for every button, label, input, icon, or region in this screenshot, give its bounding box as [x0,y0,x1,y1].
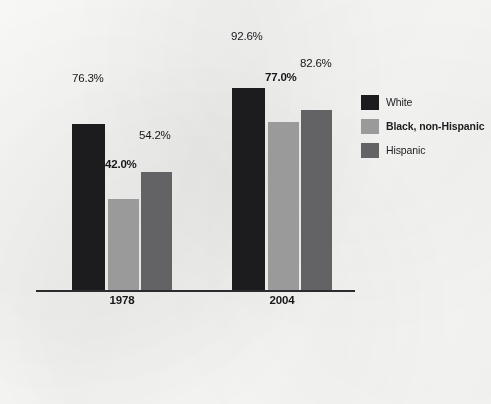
legend-swatch-black-non-hispanic [361,119,379,134]
bar-1978-hispanic [141,172,172,291]
bar-chart: 76.3% 42.0% 54.2% 92.6% 77.0% 82.6% 1978… [0,0,491,404]
x-axis-tick-2004: 2004 [259,294,305,306]
bar-value-1978-hispanic: 54.2% [139,129,171,141]
bar-value-1978-white: 76.3% [72,72,104,84]
legend-label-white: White [386,96,412,108]
legend-swatch-hispanic [361,143,379,158]
legend-item-hispanic: Hispanic [361,138,487,162]
x-axis-line [36,290,355,292]
legend-swatch-white [361,95,379,110]
legend-label-hispanic: Hispanic [386,144,425,156]
plot-area: 76.3% 42.0% 54.2% 92.6% 77.0% 82.6% 1978… [0,0,491,404]
bar-value-2004-black-non-hispanic: 77.0% [265,71,297,83]
bar-value-2004-hispanic: 82.6% [300,57,332,69]
legend-label-black-non-hispanic: Black, non-Hispanic [386,120,484,132]
bar-2004-white [232,88,265,291]
bar-1978-black-non-hispanic [108,199,139,291]
legend-item-white: White [361,90,487,114]
bar-1978-white [72,124,105,291]
bar-2004-hispanic [301,110,332,291]
bar-value-1978-black-non-hispanic: 42.0% [105,158,137,170]
x-axis-tick-1978: 1978 [99,294,145,306]
bar-value-2004-white: 92.6% [231,30,263,42]
legend-item-black-non-hispanic: Black, non-Hispanic [361,114,487,138]
chart-legend: White Black, non-Hispanic Hispanic [361,90,487,162]
bar-2004-black-non-hispanic [268,122,299,291]
